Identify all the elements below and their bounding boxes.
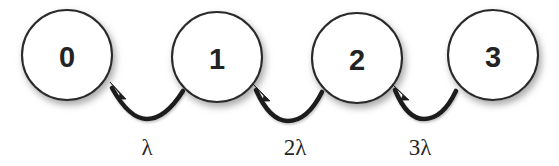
transition-arc-3-to-2[interactable]	[395, 90, 456, 119]
state-node-0[interactable]: 0	[22, 10, 112, 100]
transition-rate-label-2-to-1: 2λ	[284, 135, 308, 160]
state-node-3[interactable]: 3	[448, 10, 538, 100]
transition-3-to-2[interactable]: 3λ	[392, 84, 456, 160]
state-label-1: 1	[209, 43, 225, 75]
transition-arc-2-to-1[interactable]	[256, 90, 322, 121]
state-transition-canvas: 0 1 2 3 λ 2λ 3λ	[0, 0, 559, 166]
state-label-0: 0	[59, 41, 75, 73]
state-node-2[interactable]: 2	[312, 13, 402, 103]
transition-rate-label-1-to-0: λ	[141, 135, 153, 160]
transition-1-to-0[interactable]: λ	[110, 82, 183, 160]
state-label-2: 2	[349, 44, 365, 76]
transition-rate-label-3-to-2: 3λ	[409, 135, 433, 160]
transition-2-to-1[interactable]: 2λ	[253, 84, 322, 160]
state-label-3: 3	[485, 41, 501, 73]
transition-arc-1-to-0[interactable]	[112, 88, 183, 119]
state-node-1[interactable]: 1	[172, 12, 262, 102]
markov-chain-diagram: 0 1 2 3 λ 2λ 3λ	[0, 0, 559, 166]
